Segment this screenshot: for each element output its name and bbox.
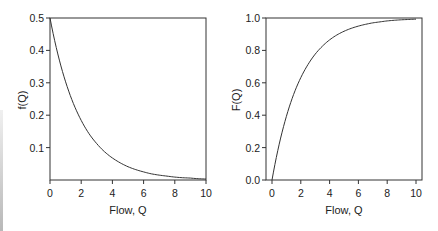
y-tick-label: 0.8 [245, 44, 260, 56]
x-tick-label: 4 [109, 187, 115, 199]
left-x-ticks [50, 180, 206, 184]
y-tick-label: 0.4 [29, 44, 44, 56]
right-y-axis-label: F(Q) [230, 89, 242, 112]
cdf-curve [272, 19, 416, 180]
left-y-tick-labels: 0.5 0.4 0.3 0.2 0.1 [29, 12, 44, 154]
y-tick-label: 0.1 [29, 142, 44, 154]
right-x-axis-label: Flow, Q [325, 204, 363, 216]
right-y-ticks [262, 18, 266, 180]
x-tick-label: 2 [298, 187, 304, 199]
x-tick-label: 4 [327, 187, 333, 199]
right-y-tick-labels: 1.0 0.8 0.6 0.4 0.2 0.0 [245, 12, 260, 186]
x-tick-label: 0 [269, 187, 275, 199]
right-plot-frame [266, 18, 422, 180]
x-tick-label: 0 [47, 187, 53, 199]
x-tick-label: 8 [384, 187, 390, 199]
figure: 0.5 0.4 0.3 0.2 0.1 0 2 4 6 8 10 Flow, Q… [0, 0, 438, 231]
left-y-axis-label: f(Q) [16, 91, 28, 110]
y-tick-label: 0.0 [245, 174, 260, 186]
y-tick-label: 0.2 [245, 142, 260, 154]
x-tick-label: 10 [410, 187, 422, 199]
y-tick-label: 1.0 [245, 12, 260, 24]
right-x-tick-labels: 0 2 4 6 8 10 [269, 187, 422, 199]
y-tick-label: 0.5 [29, 12, 44, 24]
left-y-ticks [46, 18, 50, 148]
y-tick-label: 0.6 [245, 77, 260, 89]
x-tick-label: 6 [141, 187, 147, 199]
right-plot: 1.0 0.8 0.6 0.4 0.2 0.0 0 2 4 6 8 10 Flo… [230, 12, 422, 216]
right-x-ticks [272, 180, 416, 184]
x-tick-label: 8 [172, 187, 178, 199]
pdf-curve [50, 18, 206, 179]
x-tick-label: 2 [78, 187, 84, 199]
left-x-axis-label: Flow, Q [109, 204, 147, 216]
left-x-tick-labels: 0 2 4 6 8 10 [47, 187, 212, 199]
left-plot: 0.5 0.4 0.3 0.2 0.1 0 2 4 6 8 10 Flow, Q… [16, 12, 212, 216]
y-tick-label: 0.2 [29, 109, 44, 121]
x-tick-label: 10 [200, 187, 212, 199]
left-plot-frame [50, 18, 206, 180]
y-tick-label: 0.4 [245, 109, 260, 121]
x-tick-label: 6 [355, 187, 361, 199]
y-tick-label: 0.3 [29, 77, 44, 89]
